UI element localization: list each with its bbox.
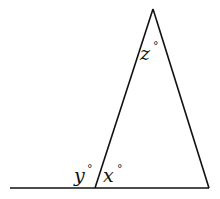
degree-symbol-y: ° [87, 162, 93, 175]
triangle-diagram: z ° y ° x ° [0, 0, 220, 199]
triangle-left-side [95, 9, 153, 188]
degree-symbol-x: ° [117, 162, 123, 175]
angle-label-y: y [73, 164, 85, 186]
degree-symbol-z: ° [153, 39, 159, 52]
triangle-right-side [153, 9, 209, 188]
angle-label-z: z [139, 42, 151, 64]
angle-label-x: x [103, 164, 114, 186]
